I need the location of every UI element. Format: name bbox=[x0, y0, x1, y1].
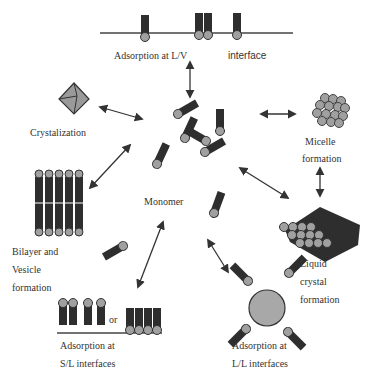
lc-label-3: formation bbox=[300, 294, 339, 306]
bilayer-label-3: formation bbox=[12, 282, 51, 294]
crystalization-label: Crystalization bbox=[30, 127, 86, 139]
ll-label-2: L/L interfaces bbox=[232, 358, 288, 370]
arrows bbox=[90, 62, 320, 287]
sl-label-2: S/L interfaces bbox=[60, 358, 115, 370]
liquid-crystal-icon bbox=[280, 207, 361, 262]
crystal-icon bbox=[59, 83, 89, 114]
lv-label-right: interface bbox=[228, 50, 266, 62]
monomers bbox=[102, 99, 227, 261]
bilayer-label-2: Vesicle bbox=[12, 264, 41, 276]
monomer-label: Monomer bbox=[144, 196, 183, 208]
micelle-label-2: formation bbox=[302, 153, 341, 165]
diagram-canvas bbox=[0, 0, 376, 379]
lv-interface bbox=[100, 13, 293, 42]
micelle-label-1: Micelle bbox=[305, 136, 336, 148]
ll-interface-icon bbox=[227, 254, 307, 350]
lc-label-1: Liquid bbox=[300, 258, 327, 270]
ll-label-1: Adsorption at bbox=[232, 340, 287, 352]
lv-label-left: Adsorption at L/V bbox=[114, 50, 187, 62]
sl-label-1: Adsorption at bbox=[60, 340, 115, 352]
lc-label-2: crystal bbox=[300, 276, 327, 288]
sl-or-label: or bbox=[109, 314, 117, 326]
bilayer-label-1: Bilayer and bbox=[12, 246, 58, 258]
micelle-icon bbox=[313, 94, 350, 128]
bilayer-icon bbox=[35, 170, 83, 236]
